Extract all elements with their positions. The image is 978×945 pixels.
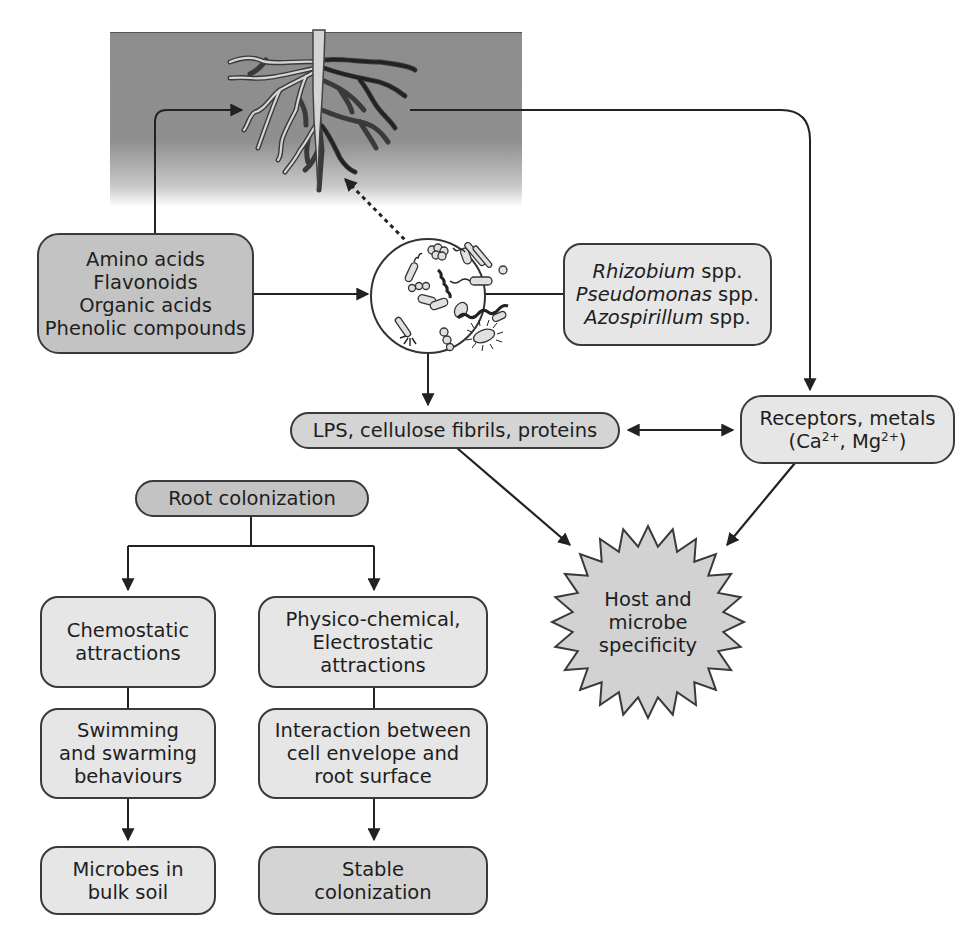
species-pseudomonas: Pseudomonas spp.	[576, 283, 759, 306]
microbe-community-icon	[371, 239, 508, 353]
exudate-amino-acids: Amino acids	[86, 248, 205, 271]
plant-root-icon	[230, 30, 415, 190]
chemostatic-attractions-box: Chemostatic attractions	[40, 596, 216, 688]
specificity-label: Host and microbe specificity	[570, 588, 726, 657]
stable-colonization-box: Stable colonization	[258, 846, 488, 915]
root-colonization-pill: Root colonization	[135, 480, 369, 517]
exudates-box: Amino acids Flavonoids Organic acids Phe…	[37, 233, 254, 354]
swimming-swarming-box: Swimming and swarming behaviours	[40, 708, 216, 799]
surface-molecules-pill: LPS, cellulose fibrils, proteins	[290, 412, 620, 449]
species-box: Rhizobium spp. Pseudomonas spp. Azospiri…	[563, 243, 772, 346]
exudate-organic-acids: Organic acids	[79, 294, 212, 317]
edge-lps-to-specificity	[457, 448, 570, 545]
edge-exudates-to-root	[155, 110, 242, 233]
exudate-phenolic-compounds: Phenolic compounds	[45, 317, 246, 340]
edge-root-colonization-split	[128, 516, 374, 546]
edge-receptors-to-specificity	[727, 463, 795, 545]
diagram-canvas: Amino acids Flavonoids Organic acids Phe…	[0, 0, 978, 945]
exudate-flavonoids: Flavonoids	[93, 271, 197, 294]
connectors-layer	[0, 0, 978, 945]
cell-envelope-interaction-box: Interaction between cell envelope and ro…	[258, 708, 488, 799]
species-rhizobium: Rhizobium spp.	[593, 260, 743, 283]
root-colonization-label: Root colonization	[168, 487, 336, 510]
species-azospirillum: Azospirillum spp.	[584, 306, 750, 329]
microbes-bulk-soil-box: Microbes in bulk soil	[40, 846, 216, 915]
receptors-line1: Receptors, metals	[759, 407, 935, 430]
physico-chemical-box: Physico-chemical, Electrostatic attracti…	[258, 596, 488, 688]
receptors-line2: (Ca2+, Mg2+)	[789, 430, 907, 453]
surface-molecules-label: LPS, cellulose fibrils, proteins	[313, 419, 598, 442]
receptors-box: Receptors, metals (Ca2+, Mg2+)	[740, 395, 955, 464]
edge-microbes-to-root-dotted	[345, 179, 410, 245]
